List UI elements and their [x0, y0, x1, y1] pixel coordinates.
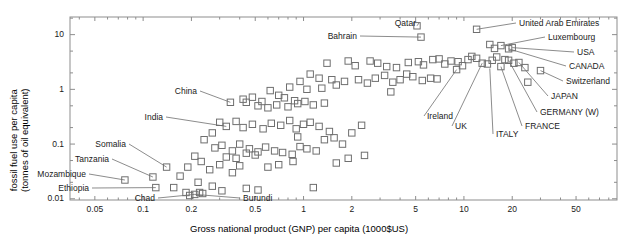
annotation-usa: USA	[577, 48, 594, 57]
annotation-ireland: Ireland	[427, 112, 453, 121]
chart-figure: 0.050.10.20.5125102050 0.010.1110 QatarU…	[0, 0, 640, 245]
x-tick-label: 0.2	[182, 205, 200, 214]
annotation-chad: Chad	[0, 194, 155, 203]
x-tick-label: 20	[503, 205, 521, 214]
annotation-switzerland: Switzerland	[566, 77, 610, 86]
x-tick-label: 0.5	[246, 205, 264, 214]
x-tick-label: 50	[567, 205, 585, 214]
annotation-japan: JAPAN	[551, 92, 578, 101]
y-axis-title: fossil fuel use per capita (tonnes of oi…	[8, 88, 31, 192]
annotation-uk: UK	[455, 122, 467, 131]
y-axis-title-line1: fossil fuel use per capita	[8, 88, 19, 192]
annotation-luxembourg: Luxembourg	[548, 33, 595, 42]
data-point-markers	[122, 23, 544, 199]
annotation-bahrain: Bahrain	[0, 32, 357, 41]
annotation-burundi: Burundi	[243, 194, 272, 203]
annotation-canada: CANADA	[569, 62, 604, 71]
annotation-france: FRANCE	[525, 122, 560, 131]
x-tick-label: 0.05	[86, 205, 104, 214]
annotation-united-arab-emirates: United Arab Emirates	[519, 19, 599, 28]
x-tick-label: 1	[295, 205, 313, 214]
x-axis-title: Gross national product (GNP) per capita …	[190, 224, 408, 235]
annotation-germany-w: GERMANY (W)	[540, 108, 599, 117]
x-tick-label: 0.1	[134, 205, 152, 214]
annotation-qatar: Qatar	[0, 19, 416, 28]
x-tick-label: 2	[343, 205, 361, 214]
y-axis-title-line2: (tonnes of oil equivalent)	[19, 88, 30, 192]
x-tick-label: 10	[455, 205, 473, 214]
annotation-italy: ITALY	[496, 130, 518, 139]
x-tick-label: 5	[407, 205, 425, 214]
